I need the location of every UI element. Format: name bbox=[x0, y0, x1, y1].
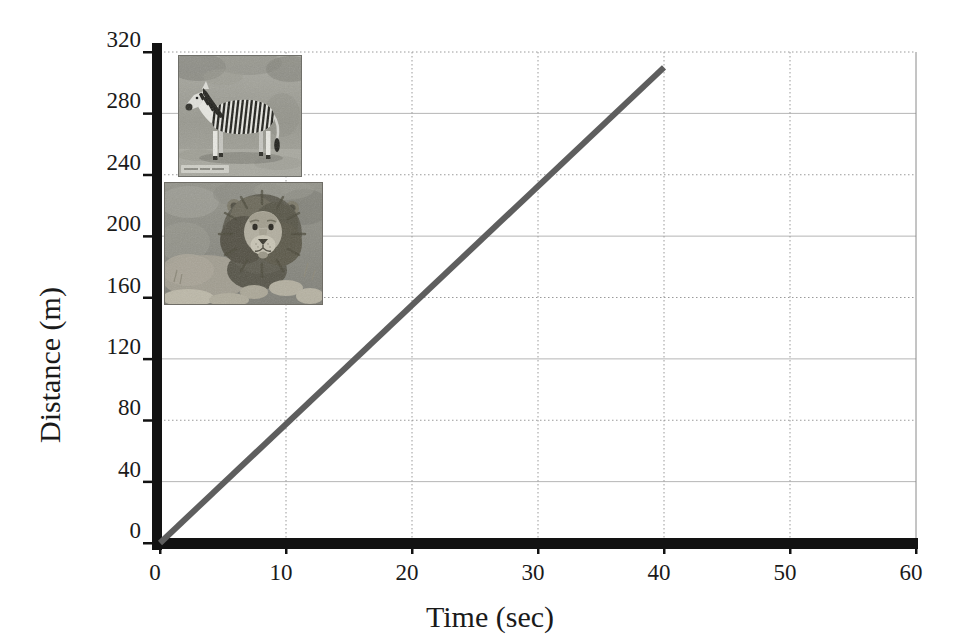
x-tick-mark bbox=[285, 549, 288, 554]
y-axis-title: Distance (m) bbox=[33, 287, 67, 443]
photo-grain bbox=[178, 55, 302, 177]
y-axis-bar bbox=[152, 43, 162, 550]
x-tick-mark bbox=[411, 549, 414, 554]
zebra-image bbox=[178, 55, 302, 177]
y-tick-mark bbox=[143, 481, 152, 484]
x-axis-bar bbox=[152, 538, 918, 549]
x-axis-title: Time (sec) bbox=[426, 600, 554, 634]
y-tick-mark bbox=[143, 174, 152, 177]
y-tick-mark bbox=[143, 297, 152, 300]
y-tick-mark bbox=[143, 112, 152, 115]
x-tick-mark bbox=[537, 549, 540, 554]
figure: 040801201602002402803200102030405060 Dis… bbox=[0, 0, 955, 638]
x-tick-mark bbox=[663, 549, 666, 554]
x-tick-mark bbox=[159, 549, 162, 554]
lion-image bbox=[164, 182, 323, 305]
x-tick-mark bbox=[915, 549, 918, 554]
y-tick-mark bbox=[143, 235, 152, 238]
y-tick-mark bbox=[143, 419, 152, 422]
y-tick-mark bbox=[143, 358, 152, 361]
x-tick-mark bbox=[789, 549, 792, 554]
photo-grain bbox=[164, 182, 323, 305]
plot-area bbox=[0, 0, 955, 638]
y-tick-mark bbox=[143, 542, 152, 545]
y-tick-mark bbox=[143, 51, 152, 54]
